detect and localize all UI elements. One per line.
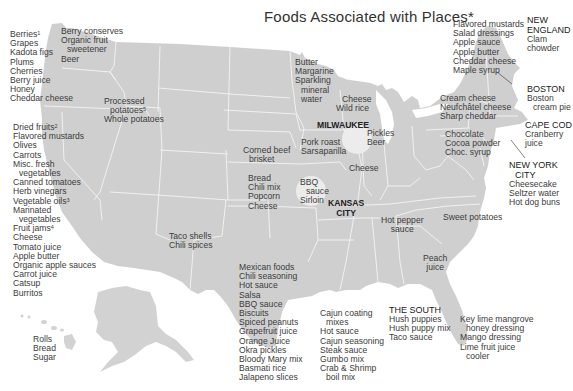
food-item: Taco sauce bbox=[389, 333, 451, 342]
label-florida: Key lime mangrove honey dressing Mango d… bbox=[460, 315, 534, 361]
food-item: juice bbox=[525, 139, 572, 148]
label-illinois: Cheese bbox=[349, 164, 379, 173]
label-nebraska: Corned beef brisket bbox=[243, 146, 290, 164]
label-boston: BOSTON Boston cream pie bbox=[527, 84, 571, 112]
label-pennsylvania: Chocolate Cocoa powder Choc. syrup bbox=[445, 130, 500, 158]
label-georgia: Peach juice bbox=[423, 254, 447, 272]
city-label-milwaukee: MILWAUKEE bbox=[317, 121, 369, 131]
food-item: Sharp cheddar bbox=[440, 112, 511, 121]
footnote-marker: 3 bbox=[67, 197, 70, 203]
footnote-marker: 4 bbox=[51, 224, 54, 230]
alaska-landmass bbox=[94, 286, 194, 372]
city-name-line: NEW YORK bbox=[509, 160, 560, 170]
label-new-york-state: Cream cheese Neufchâtel cheese Sharp che… bbox=[440, 94, 511, 122]
region-name-line: NEW bbox=[527, 15, 571, 25]
food-item: cooler bbox=[460, 352, 534, 361]
food-item: Cheese bbox=[349, 164, 379, 173]
label-iowa: Pork roast Sarsaparilla bbox=[301, 138, 346, 156]
food-item: Cheese bbox=[248, 202, 280, 211]
label-new-mexico: Taco shells Chili spices bbox=[169, 232, 212, 250]
label-washington-idaho: Berry conserves Organic fruit sweetener … bbox=[61, 27, 123, 64]
label-new-england: NEW ENGLAND Clam chowder bbox=[527, 15, 571, 53]
footnote-marker: 2 bbox=[55, 123, 58, 129]
label-the-south: THE SOUTH Hush puppies Hush puppy mix Ta… bbox=[389, 305, 451, 343]
food-item: Maple syrup bbox=[453, 66, 524, 75]
label-tennessee: Hot pepper sauce bbox=[381, 216, 424, 234]
label-north-carolina: Sweet potatoes bbox=[443, 213, 502, 222]
label-wisconsin: Cheese Wild rice bbox=[336, 95, 372, 113]
food-item: Burritos bbox=[13, 289, 96, 298]
food-item: brisket bbox=[243, 155, 290, 164]
food-item: boil mix bbox=[320, 373, 384, 382]
food-item: sauce bbox=[381, 225, 424, 234]
food-item: Wild rice bbox=[336, 104, 372, 113]
label-louisiana: Cajun coating mixes Hot sauce Cajun seas… bbox=[320, 309, 384, 383]
footnote-marker: 1 bbox=[37, 30, 40, 36]
label-milwaukee-foods: Pickles Beer bbox=[367, 129, 394, 147]
footnote-marker: 5 bbox=[143, 106, 146, 112]
food-item: Sugar bbox=[33, 353, 56, 362]
label-vermont: Flavored mustards Salad dressings Apple … bbox=[453, 20, 524, 75]
food-item: Sweet potatoes bbox=[443, 213, 502, 222]
food-item: Beer bbox=[61, 55, 123, 64]
label-minnesota: Butter Margarine Sparkling mineral water bbox=[295, 58, 334, 104]
map-title: Foods Associated with Places* bbox=[264, 8, 474, 25]
new-york-city-leader-line bbox=[511, 140, 525, 158]
food-item: Sarsaparilla bbox=[301, 147, 346, 156]
label-kansas: Bread Chili mix Popcorn Cheese bbox=[248, 174, 280, 211]
food-item: cream pie bbox=[527, 103, 571, 112]
food-item: juice bbox=[423, 263, 447, 272]
label-kansas-city-foods: BBQ sauce Sirloin bbox=[300, 178, 329, 206]
food-item: Beer bbox=[367, 138, 394, 147]
food-item: water bbox=[295, 95, 334, 104]
food-item: Jalapeno slices bbox=[239, 373, 303, 382]
food-item: Whole potatoes bbox=[104, 115, 164, 124]
food-item: Hot dog buns bbox=[509, 198, 560, 207]
food-item: Chili spices bbox=[169, 241, 212, 250]
label-idaho: Processed potatoes5 Whole potatoes bbox=[104, 97, 164, 125]
label-new-york-city: NEW YORK CITY Cheesecake Seltzer water H… bbox=[509, 160, 560, 208]
label-texas: Mexican foods Chili seasoning Hot sauce … bbox=[239, 263, 303, 383]
label-california: Dried fruits2 Flavored mustards Olives C… bbox=[13, 123, 96, 298]
label-cape-cod: CAPE COD Cranberry juice bbox=[525, 120, 572, 148]
food-item: chowder bbox=[527, 44, 571, 53]
food-item: Choc. syrup bbox=[445, 148, 500, 157]
food-item: Sirloin bbox=[300, 196, 329, 205]
city-name-line: CITY bbox=[328, 209, 364, 219]
food-item: Cheddar cheese bbox=[10, 94, 73, 103]
label-hawaii: Rolls Bread Sugar bbox=[33, 335, 56, 363]
city-label-kansas-city: KANSAS CITY bbox=[328, 199, 364, 218]
